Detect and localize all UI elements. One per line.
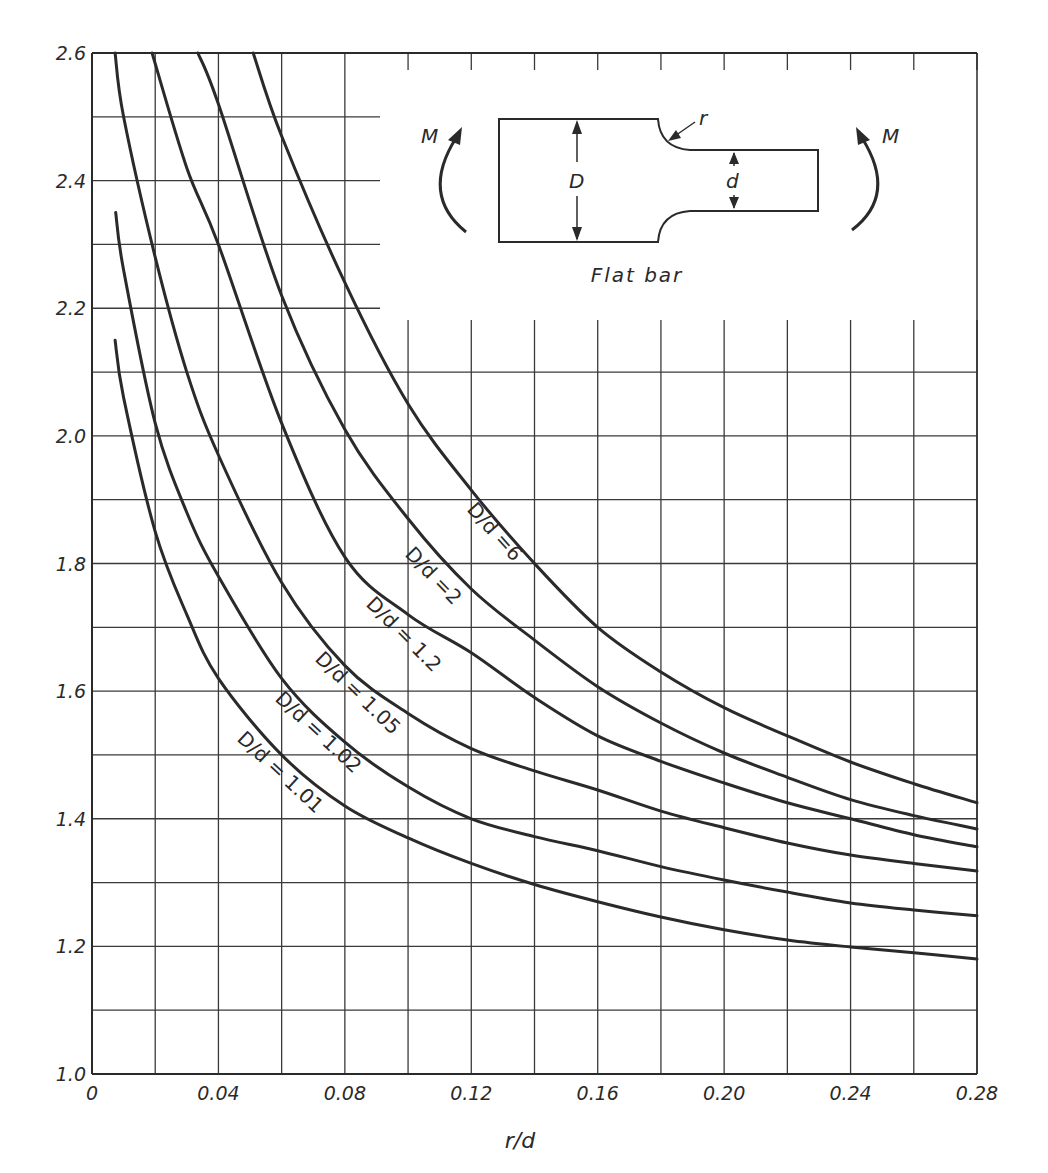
- x-axis-ticks: 00.040.080.120.160.200.240.28: [86, 1082, 998, 1104]
- x-axis-label: r/d: [505, 1128, 536, 1153]
- x-tick-label: 0.08: [324, 1082, 366, 1104]
- y-tick-label: 1.0: [56, 1063, 86, 1085]
- x-tick-label: 0.24: [829, 1082, 871, 1104]
- inset-caption: Flat bar: [591, 263, 684, 287]
- x-tick-label: 0.16: [577, 1082, 619, 1104]
- curve-label: D/d =6: [462, 497, 527, 566]
- y-tick-label: 2.4: [56, 170, 86, 192]
- y-tick-label: 2.2: [56, 297, 86, 319]
- small-dimension-label: d: [726, 169, 739, 193]
- stress-concentration-chart: D/d =6D/d =2D/d = 1.2D/d = 1.05D/d = 1.0…: [0, 0, 1048, 1173]
- x-tick-label: 0.04: [197, 1082, 239, 1104]
- x-tick-label: 0.20: [703, 1082, 745, 1104]
- y-tick-label: 1.4: [56, 808, 86, 830]
- y-tick-label: 1.2: [56, 935, 86, 957]
- y-tick-label: 1.8: [56, 553, 86, 575]
- y-tick-label: 2.6: [56, 42, 86, 64]
- x-tick-label: 0.12: [450, 1082, 492, 1104]
- y-axis-ticks: 1.01.21.41.61.82.02.22.42.6: [56, 42, 86, 1085]
- y-tick-label: 2.0: [56, 425, 86, 447]
- large-dimension-label: D: [569, 169, 584, 193]
- x-tick-label: 0: [86, 1082, 98, 1104]
- curve-label: D/d = 1.2: [361, 592, 446, 677]
- moment-label-left: M: [421, 124, 438, 148]
- moment-label-right: M: [882, 124, 899, 148]
- x-tick-label: 0.28: [956, 1082, 998, 1104]
- y-tick-label: 1.6: [56, 680, 86, 702]
